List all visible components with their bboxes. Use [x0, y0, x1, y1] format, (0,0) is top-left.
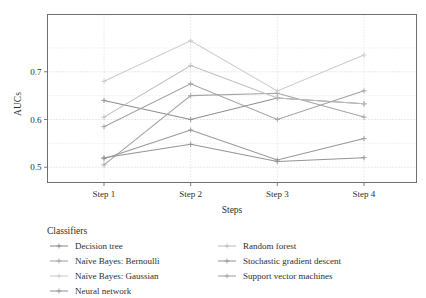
legend-label: Random forest [243, 241, 297, 251]
legend-label: Decision tree [75, 241, 123, 251]
legend-title: Classifiers [47, 226, 87, 236]
legend-label: Neural network [75, 286, 132, 296]
x-tick-label: Step 4 [353, 189, 376, 199]
x-tick-label: Step 1 [93, 189, 116, 199]
x-axis-label: Steps [222, 205, 243, 215]
chart-svg: 0.50.60.7 Step 1Step 2Step 3Step 4 AUCs … [0, 0, 426, 298]
legend-label: Stochastic gradient descent [243, 256, 341, 266]
y-tick-label: 0.7 [30, 67, 42, 77]
y-tick-label: 0.5 [30, 162, 42, 172]
y-axis-label: AUCs [13, 92, 23, 116]
x-tick-label: Step 2 [179, 189, 202, 199]
legend-label: Naïve Bayes: Gaussian [75, 271, 159, 281]
x-tick-label: Step 3 [266, 189, 289, 199]
y-tick-label: 0.6 [30, 115, 42, 125]
legend-label: Naïve Bayes: Bernoulli [75, 256, 160, 266]
legend-label: Support vector machines [243, 271, 333, 281]
chart-figure: 0.50.60.7 Step 1Step 2Step 3Step 4 AUCs … [0, 0, 426, 298]
